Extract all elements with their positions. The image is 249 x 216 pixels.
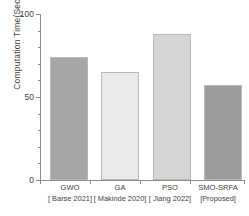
x-label-pso-name: PSO: [162, 183, 178, 192]
bar-ga: [101, 72, 139, 180]
y-tick-label-100: 100: [20, 10, 34, 19]
y-minor-tick-60: [38, 80, 41, 81]
x-label-gwo-name: GWO: [61, 183, 80, 192]
y-minor-tick-70: [38, 64, 41, 65]
x-label-smo-srfa-name: SMO-SRFA: [198, 183, 238, 192]
y-axis-line: [40, 14, 41, 180]
y-tick-50: [36, 97, 40, 98]
bar-pso: [153, 34, 191, 180]
bar-smo-srfa: [204, 85, 242, 180]
plot-area: 0 50 100: [40, 14, 245, 180]
x-label-smo-srfa: SMO-SRFA [Proposed]: [180, 183, 249, 204]
bar-chart: Computation Time(Sec) 0 50 100 GWO: [0, 0, 249, 216]
y-minor-tick-20: [38, 147, 41, 148]
y-minor-tick-40: [38, 114, 41, 115]
x-label-ga-name: GA: [115, 183, 126, 192]
y-minor-tick-90: [38, 31, 41, 32]
x-label-smo-srfa-citation: [Proposed]: [180, 194, 249, 205]
y-minor-tick-10: [38, 163, 41, 164]
y-tick-100: [36, 14, 40, 15]
x-axis-labels: GWO [ Barse 2021] GA [ Makinde 2020] PSO…: [40, 183, 249, 216]
y-minor-tick-30: [38, 130, 41, 131]
y-minor-tick-80: [38, 47, 41, 48]
y-tick-label-50: 50: [25, 93, 34, 102]
x-axis-line: [40, 180, 245, 181]
bar-gwo: [50, 57, 88, 180]
